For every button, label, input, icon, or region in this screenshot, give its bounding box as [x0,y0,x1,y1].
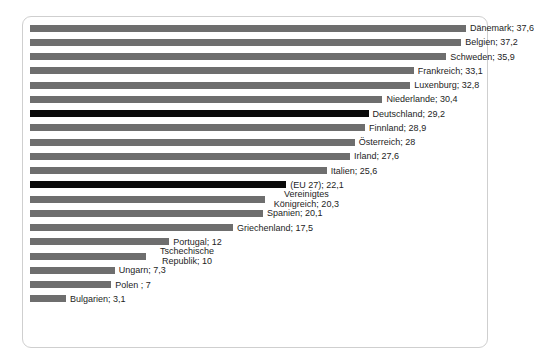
bar-row: Schweden; 35,9 [30,50,515,64]
bar-ungarn[interactable] [30,267,115,274]
bar-row: Deutschland; 29,2 [30,107,445,121]
bar-label: Griechenland; 17,5 [237,223,313,233]
bar-belgien[interactable] [30,39,461,46]
bar-label: Ungarn; 7,3 [119,265,166,275]
bar-d-nemark[interactable] [30,25,466,32]
bar-row: Spanien; 20,1 [30,206,323,220]
bar-row: Polen ; 7 [30,278,151,292]
bar-row: Niederlande; 30,4 [30,92,458,106]
bar-label: Spanien; 20,1 [267,208,323,218]
bar-label: Luxenburg; 32,8 [414,80,479,90]
bar-row: Ungarn; 7,3 [30,263,166,277]
bar-row: Vereinigtes Königreich; 20,3 [30,192,343,206]
bar-irland[interactable] [30,153,350,160]
bar-label: Irland; 27,6 [354,151,399,161]
bar-row: Dänemark; 37,6 [30,21,534,35]
bar-label: Finnland; 28,9 [369,123,426,133]
bar-niederlande[interactable] [30,96,382,103]
bar-frankreich[interactable] [30,67,414,74]
bar-vereinigtes-k-nigreich[interactable] [30,196,265,203]
bar-label: Niederlande; 30,4 [386,94,457,104]
bar-row: Österreich; 28 [30,135,415,149]
bar-griechenland[interactable] [30,224,233,231]
bar-row: Italien; 25,6 [30,164,377,178]
bar-sterreich[interactable] [30,139,355,146]
bar-row: Belgien; 37,2 [30,35,518,49]
bar-row: Frankreich; 33,1 [30,64,483,78]
bar-label: Dänemark; 37,6 [470,23,534,33]
bar-tschechische-republik[interactable] [30,253,146,260]
bar-label: Schweden; 35,9 [450,52,515,62]
bar-row: Bulgarien; 3,1 [30,292,125,306]
bar-deutschland[interactable] [30,110,369,117]
bar-schweden[interactable] [30,53,446,60]
bar-luxenburg[interactable] [30,82,410,89]
bar-spanien[interactable] [30,210,263,217]
bar-row: Finnland; 28,9 [30,121,426,135]
bar-italien[interactable] [30,167,327,174]
bar-label: Frankreich; 33,1 [418,66,483,76]
bar-label: Italien; 25,6 [331,166,378,176]
bar-label: Bulgarien; 3,1 [70,294,126,304]
bar-finnland[interactable] [30,124,365,131]
bar-portugal[interactable] [30,238,169,245]
bar-row: Luxenburg; 32,8 [30,78,479,92]
bar-label: Deutschland; 29,2 [373,109,446,119]
bar-row: Griechenland; 17,5 [30,221,313,235]
bar-polen[interactable] [30,281,111,288]
bar-row: Tschechische Republik; 10 [30,249,224,263]
bar-bulgarien[interactable] [30,295,66,302]
bar-eu-27[interactable] [30,181,286,188]
bar-label: Belgien; 37,2 [465,37,518,47]
bar-row: Irland; 27,6 [30,149,399,163]
bar-label: Österreich; 28 [359,137,416,147]
bar-label: Polen ; 7 [115,280,151,290]
